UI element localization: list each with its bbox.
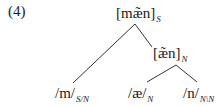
- node-mid-category: N: [182, 54, 188, 64]
- leaf-n: /n/N\N: [183, 86, 214, 104]
- leaf-n-text: /n/: [183, 85, 199, 101]
- leaf-m-text: /m/: [55, 85, 75, 101]
- node-root-text: [mæ̃n]: [116, 5, 155, 21]
- leaf-ae-category: N: [147, 94, 153, 104]
- leaf-ae-text: /æ/: [128, 85, 146, 101]
- edge-mid-to-ae: [147, 65, 176, 82]
- node-root-category: S: [156, 14, 161, 24]
- node-mid-text: [æ̃n]: [153, 45, 181, 61]
- node-root: [mæ̃n]S: [116, 6, 161, 24]
- node-mid: [æ̃n]N: [153, 46, 188, 64]
- leaf-ae: /æ/N: [128, 86, 153, 104]
- edge-mid-to-n: [176, 65, 197, 82]
- leaf-m-category: S/N: [76, 94, 89, 104]
- leaf-n-category: N\N: [200, 94, 215, 104]
- leaf-m: /m/S/N: [55, 86, 89, 104]
- edge-root-to-m: [73, 24, 135, 83]
- edge-root-to-mid: [135, 24, 152, 47]
